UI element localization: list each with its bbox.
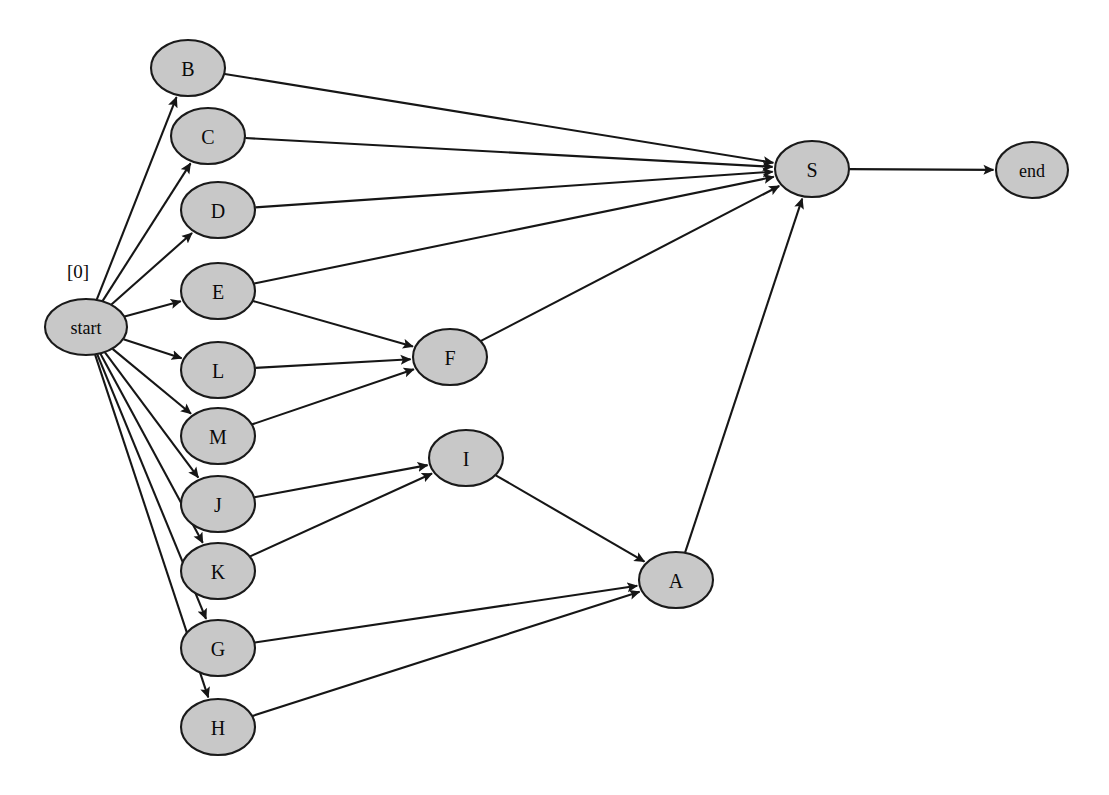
edge-start-to-L xyxy=(124,339,182,358)
node-H[interactable]: H xyxy=(181,699,255,755)
edge-start-to-E xyxy=(125,301,181,316)
edge-start-to-M xyxy=(113,349,191,414)
node-label-I: I xyxy=(463,448,470,470)
graph-canvas: startBCDELMJKGHFIASend [0] xyxy=(0,0,1109,795)
edge-start-to-B xyxy=(97,97,177,299)
edge-E-to-F xyxy=(253,301,413,346)
node-label-M: M xyxy=(209,426,227,448)
annotations-layer: [0] xyxy=(67,261,89,282)
node-label-end: end xyxy=(1019,161,1045,181)
node-end[interactable]: end xyxy=(996,142,1068,198)
edge-H-to-A xyxy=(253,592,640,716)
node-label-H: H xyxy=(211,717,225,739)
node-label-K: K xyxy=(211,561,226,583)
node-C[interactable]: C xyxy=(171,108,245,164)
directed-graph: startBCDELMJKGHFIASend [0] xyxy=(0,0,1109,795)
edge-start-to-C xyxy=(103,163,191,301)
node-label-A: A xyxy=(669,570,684,592)
edge-M-to-F xyxy=(252,369,414,424)
node-label-G: G xyxy=(211,638,225,660)
node-label-S: S xyxy=(806,159,817,181)
node-F[interactable]: F xyxy=(413,329,487,385)
edge-C-to-S xyxy=(245,138,772,167)
node-label-J: J xyxy=(214,494,222,516)
edge-S-to-end xyxy=(850,169,994,170)
edge-D-to-S xyxy=(255,172,772,208)
edge-B-to-S xyxy=(225,74,774,163)
node-label-L: L xyxy=(212,360,224,382)
node-label-D: D xyxy=(211,200,225,222)
node-A[interactable]: A xyxy=(639,552,713,608)
node-J[interactable]: J xyxy=(181,476,255,532)
node-label-C: C xyxy=(201,126,214,148)
node-I[interactable]: I xyxy=(429,430,503,486)
edge-F-to-S xyxy=(481,186,779,341)
node-label-B: B xyxy=(181,58,194,80)
node-start[interactable]: start xyxy=(45,299,127,355)
edge-A-to-S xyxy=(685,199,802,553)
node-K[interactable]: K xyxy=(181,543,255,599)
nodes-layer: startBCDELMJKGHFIASend xyxy=(45,40,1068,755)
node-D[interactable]: D xyxy=(181,182,255,238)
node-E[interactable]: E xyxy=(181,263,255,319)
edge-K-to-I xyxy=(250,474,432,557)
edge-L-to-F xyxy=(255,359,410,368)
edge-G-to-A xyxy=(255,586,637,643)
node-label-F: F xyxy=(444,347,455,369)
node-G[interactable]: G xyxy=(181,620,255,676)
node-S[interactable]: S xyxy=(775,141,849,197)
node-B[interactable]: B xyxy=(151,40,225,96)
node-M[interactable]: M xyxy=(181,408,255,464)
node-label-start: start xyxy=(71,318,102,338)
edge-J-to-I xyxy=(254,465,427,497)
edge-I-to-A xyxy=(496,475,645,561)
annotation-start-cost: [0] xyxy=(67,261,89,282)
node-label-E: E xyxy=(212,281,224,303)
node-L[interactable]: L xyxy=(181,342,255,398)
